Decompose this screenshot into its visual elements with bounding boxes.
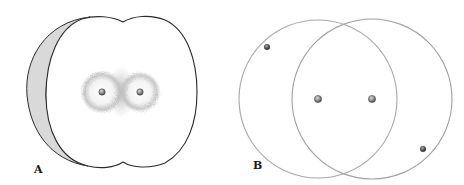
nucleus-b-left <box>314 95 321 102</box>
panel-b <box>239 19 452 179</box>
electron-cloud <box>80 66 161 118</box>
panel-label-b: B <box>253 159 262 172</box>
electron-left <box>264 44 270 50</box>
nucleus-a-right <box>137 89 143 95</box>
panel-a <box>27 16 197 167</box>
figure-canvas <box>0 0 464 185</box>
nucleus-a-left <box>99 89 105 95</box>
nucleus-b-right <box>368 95 375 102</box>
panel-label-a: A <box>34 163 43 176</box>
electron-right <box>420 146 426 152</box>
